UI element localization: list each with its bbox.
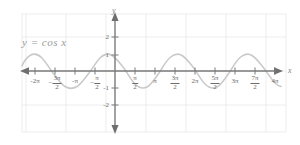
fraction-numerator: 3π — [170, 75, 179, 82]
x-tick-text: -π — [72, 78, 78, 85]
fraction: 3π2 — [170, 75, 179, 91]
x-tick-label: 5π2 — [210, 75, 219, 91]
fraction-numerator: 3π — [52, 75, 61, 82]
y-tick-label: -1 — [97, 85, 109, 92]
x-tick-label: -π — [72, 78, 78, 85]
coordinate-plane — [0, 0, 300, 145]
cosine-graph-figure: y = cos x y x -2π −3π2 -π −π2 π2 π 3π2 2… — [0, 0, 300, 145]
x-tick-label: π2 — [132, 75, 138, 91]
fraction-denominator: 2 — [170, 84, 179, 91]
y-axis — [112, 12, 119, 134]
x-tick-label: 3π2 — [170, 75, 179, 91]
fraction: 5π2 — [210, 75, 219, 91]
x-tick-label: −3π2 — [49, 75, 62, 91]
fraction-denominator: 2 — [52, 84, 61, 91]
x-tick-label: 7π2 — [250, 75, 259, 91]
x-tick-label: -2π — [30, 78, 39, 85]
fraction-numerator: 5π — [210, 75, 219, 82]
x-tick-label: π — [153, 78, 157, 85]
fraction-numerator: π — [94, 75, 100, 82]
x-tick-label: 2π — [191, 78, 198, 85]
fraction-denominator: 2 — [210, 84, 219, 91]
equation-annotation: y = cos x — [22, 36, 67, 48]
fraction: 7π2 — [250, 75, 259, 91]
x-axis-label: x — [288, 66, 292, 75]
grid-lines — [22, 14, 286, 132]
x-tick-text: -2π — [30, 78, 39, 85]
x-tick-text: 3π — [231, 78, 238, 85]
y-tick-label: 2 — [100, 34, 109, 41]
fraction: 3π2 — [52, 75, 61, 91]
y-axis-label: y — [112, 6, 116, 15]
y-tick-label: -2 — [97, 102, 109, 109]
x-tick-text: 2π — [191, 78, 198, 85]
fraction-denominator: 2 — [250, 84, 259, 91]
x-tick-label: 3π — [231, 78, 238, 85]
fraction-denominator: 2 — [132, 84, 138, 91]
fraction-numerator: π — [132, 75, 138, 82]
x-tick-text: 4π — [271, 78, 278, 85]
x-tick-text: π — [153, 78, 157, 85]
x-tick-label: 4π — [271, 78, 278, 85]
fraction: π2 — [132, 75, 138, 91]
fraction-numerator: 7π — [250, 75, 259, 82]
y-tick-label: 1 — [100, 52, 109, 59]
